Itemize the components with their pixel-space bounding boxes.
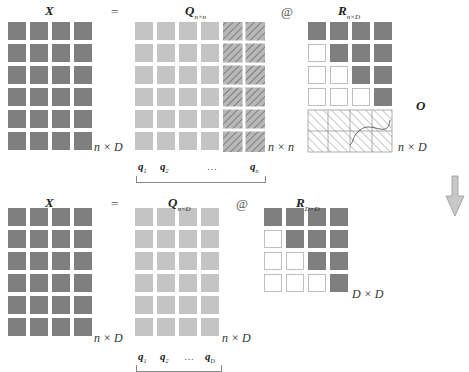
- r-cell-zero: [265, 231, 282, 248]
- top-equals-sign: =: [111, 4, 118, 20]
- r-cell-zero: [287, 275, 304, 292]
- x-cell: [52, 274, 70, 292]
- r-cell-zero: [265, 253, 282, 270]
- r-cell-nonzero: [352, 44, 370, 62]
- x-cell: [74, 318, 92, 336]
- x-cell: [52, 230, 70, 248]
- q-cell: [135, 44, 153, 62]
- x-cell: [74, 22, 92, 40]
- x-cell: [52, 208, 70, 226]
- q-cell: [157, 44, 175, 62]
- x-cell: [8, 88, 26, 106]
- x-cell: [52, 22, 70, 40]
- x-cell: [52, 132, 70, 150]
- q-cell: [135, 252, 153, 270]
- q-cell: [135, 274, 153, 292]
- r-cell-nonzero: [330, 44, 348, 62]
- r-cell-nonzero: [352, 66, 370, 84]
- q-cell: [135, 110, 153, 128]
- bottom-matmul-sign: @: [236, 196, 248, 212]
- r-cell-nonzero: [330, 274, 348, 292]
- x-cell: [8, 132, 26, 150]
- r-cell-zero: [309, 89, 326, 106]
- q-cell: [135, 296, 153, 314]
- x-cell: [52, 66, 70, 84]
- x-cell: [30, 110, 48, 128]
- top-r-label: Rn×D: [338, 3, 360, 21]
- q-cell: [135, 208, 153, 226]
- r-cell-nonzero: [330, 208, 348, 226]
- top-q-col-n: qn: [250, 160, 259, 174]
- q-cell: [135, 88, 153, 106]
- bottom-q-col-2: q2: [160, 350, 169, 364]
- r-cell-zero: [309, 67, 326, 84]
- r-cell-zero: [287, 253, 304, 270]
- q-cell: [135, 66, 153, 84]
- x-cell: [8, 252, 26, 270]
- x-cell: [74, 274, 92, 292]
- q-cell: [201, 252, 219, 270]
- bottom-q-col-ellipsis: …: [184, 351, 194, 362]
- r-cell-zero: [353, 89, 370, 106]
- q-cell: [179, 22, 197, 40]
- x-cell: [8, 318, 26, 336]
- q-cell: [157, 66, 175, 84]
- x-cell: [74, 44, 92, 62]
- q-cell: [201, 44, 219, 62]
- r-cell-nonzero: [308, 22, 326, 40]
- q-subscript: 1: [144, 358, 147, 364]
- top-q-label: Qn×n: [185, 3, 206, 21]
- bottom-x-label: X: [45, 195, 54, 211]
- x-cell: [74, 132, 92, 150]
- x-cell: [30, 132, 48, 150]
- r-cell-zero: [309, 45, 326, 62]
- q-cell: [201, 318, 219, 336]
- x-cell: [8, 208, 26, 226]
- q-cell: [201, 22, 219, 40]
- r-cell-zero: [331, 89, 348, 106]
- q-cell: [157, 110, 175, 128]
- q-cell: [201, 296, 219, 314]
- top-o-label: O: [416, 98, 425, 114]
- q-subscript: 1: [144, 168, 147, 174]
- x-cell: [30, 22, 48, 40]
- x-cell: [52, 318, 70, 336]
- r-cell-nonzero: [308, 252, 326, 270]
- bottom-q-dimension: n × D: [222, 331, 251, 346]
- top-x-dimension: n × D: [94, 140, 123, 155]
- x-cell: [74, 208, 92, 226]
- q-cell: [201, 88, 219, 106]
- x-cell: [74, 88, 92, 106]
- q-cell: [179, 296, 197, 314]
- r-cell-nonzero: [352, 22, 370, 40]
- q-cell: [179, 274, 197, 292]
- bottom-equals-sign: =: [111, 196, 118, 212]
- x-cell: [74, 252, 92, 270]
- q-cell: [135, 22, 153, 40]
- x-cell: [74, 296, 92, 314]
- top-q-bracket: [136, 176, 266, 183]
- x-cell: [30, 230, 48, 248]
- x-cell: [74, 230, 92, 248]
- q-cell: [179, 252, 197, 270]
- q-cell: [157, 22, 175, 40]
- top-q-col-2: q2: [160, 160, 169, 174]
- top-r-subscript: n×D: [347, 13, 360, 21]
- x-cell: [52, 296, 70, 314]
- x-cell: [74, 66, 92, 84]
- q-cell: [201, 208, 219, 226]
- q-subscript: 2: [166, 168, 169, 174]
- q-cell: [157, 132, 175, 150]
- q-cell: [179, 66, 197, 84]
- top-q-col-1: q1: [138, 160, 147, 174]
- q-cell: [157, 230, 175, 248]
- x-cell: [8, 110, 26, 128]
- x-cell: [30, 88, 48, 106]
- q-cell: [179, 110, 197, 128]
- r-cell-zero: [331, 67, 348, 84]
- q-cell: [179, 230, 197, 248]
- q-cell: [135, 230, 153, 248]
- bottom-r-dimension: D × D: [352, 287, 383, 302]
- r-cell-nonzero: [374, 22, 392, 40]
